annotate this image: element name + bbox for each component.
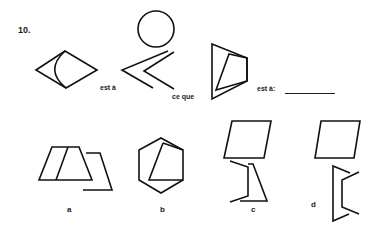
nested-quad-figure: [212, 44, 247, 99]
option-d-figure[interactable]: [315, 121, 360, 221]
option-c-label[interactable]: c: [251, 205, 255, 214]
option-b-figure[interactable]: [139, 138, 183, 193]
option-a-figure[interactable]: [39, 147, 112, 190]
diamond-arc-figure: [36, 51, 97, 88]
option-a-label[interactable]: a: [67, 205, 71, 214]
circle-chevrons-figure: [122, 11, 174, 89]
figures-canvas: [0, 0, 383, 227]
option-d-label[interactable]: d: [311, 200, 316, 209]
option-b-label[interactable]: b: [160, 205, 165, 214]
option-c-figure[interactable]: [224, 121, 271, 202]
